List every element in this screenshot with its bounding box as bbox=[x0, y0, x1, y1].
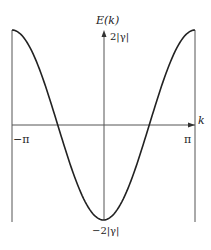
dispersion-figure: E(k) 2|γ| −2|γ| k −π π bbox=[0, 0, 211, 250]
x-min-label: −π bbox=[13, 134, 29, 145]
x-axis-arrow-icon bbox=[188, 123, 195, 128]
x-axis-label: k bbox=[198, 115, 205, 126]
y-min-label: −2|γ| bbox=[92, 226, 119, 236]
y-axis-arrow-icon bbox=[102, 30, 107, 37]
y-axis-label: E(k) bbox=[96, 15, 119, 26]
plot-area bbox=[0, 0, 211, 250]
y-max-label: 2|γ| bbox=[110, 32, 129, 42]
x-max-label: π bbox=[184, 134, 191, 145]
